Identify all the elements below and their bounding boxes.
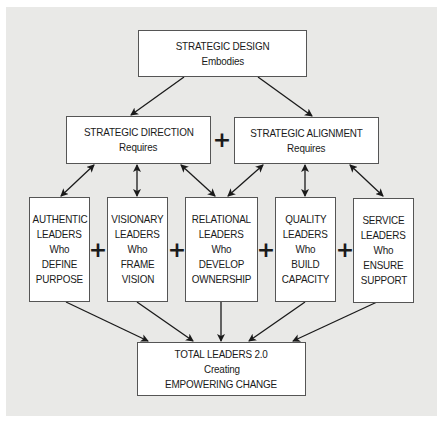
- total-leaders-title: TOTAL LEADERS 2.0: [175, 347, 268, 362]
- arrow-alignment-service: [350, 165, 383, 196]
- arrow-design-to-alignment: [258, 77, 312, 116]
- leader-line: Who: [374, 243, 394, 258]
- leader-line: DEVELOP: [199, 257, 245, 272]
- leader-line: ENSURE: [363, 258, 403, 273]
- leader-line: AUTHENTIC: [32, 212, 87, 227]
- arrow-visionary-to-total: [137, 302, 193, 341]
- authentic-leaders-box: AUTHENTIC LEADERS Who DEFINE PURPOSE: [29, 197, 90, 302]
- plus-sign-3: +: [257, 239, 275, 261]
- arrow-alignment-relational: [228, 165, 263, 196]
- leader-line: Who: [128, 242, 148, 257]
- leader-line: VISIONARY: [111, 212, 163, 227]
- leader-line: RELATIONAL: [192, 212, 251, 227]
- leader-line: SERVICE: [362, 213, 404, 228]
- strategic-alignment-box: STRATEGIC ALIGNMENT Requires: [234, 117, 379, 164]
- leader-line: Who: [296, 242, 316, 257]
- leader-line: SUPPORT: [360, 273, 406, 288]
- leader-line: VISION: [121, 272, 153, 287]
- leader-line: FRAME: [121, 257, 155, 272]
- arrow-quality-to-total: [249, 302, 305, 341]
- plus-sign-4: +: [336, 239, 354, 261]
- plus-sign-direction-alignment: +: [213, 129, 231, 151]
- strategic-direction-box: STRATEGIC DIRECTION Requires: [66, 116, 211, 164]
- strategic-direction-subtitle: Requires: [119, 140, 157, 155]
- leader-line: Who: [50, 242, 70, 257]
- visionary-leaders-box: VISIONARY LEADERS Who FRAME VISION: [107, 197, 168, 302]
- strategic-alignment-title: STRATEGIC ALIGNMENT: [250, 126, 362, 141]
- arrow-direction-relational: [181, 165, 215, 196]
- service-leaders-box: SERVICE LEADERS Who ENSURE SUPPORT: [353, 198, 414, 303]
- arrow-direction-authentic: [61, 165, 94, 196]
- arrow-authentic-to-total: [66, 302, 148, 341]
- strategic-design-subtitle: Embodies: [201, 54, 244, 69]
- relational-leaders-box: RELATIONAL LEADERS Who DEVELOP OWNERSHIP: [185, 197, 258, 302]
- leader-line: LEADERS: [361, 228, 406, 243]
- leader-line: BUILD: [291, 257, 319, 272]
- leader-line: DEFINE: [42, 257, 77, 272]
- leader-line: LEADERS: [37, 227, 82, 242]
- arrow-design-to-direction: [131, 77, 184, 115]
- leader-line: OWNERSHIP: [192, 272, 251, 287]
- leader-line: CAPACITY: [282, 272, 329, 287]
- strategic-design-title: STRATEGIC DESIGN: [176, 39, 270, 54]
- leader-line: QUALITY: [285, 212, 326, 227]
- leader-line: LEADERS: [283, 227, 328, 242]
- strategic-alignment-subtitle: Requires: [287, 141, 325, 156]
- total-leaders-verb: Creating: [203, 362, 239, 377]
- leader-line: LEADERS: [199, 227, 244, 242]
- strategic-design-box: STRATEGIC DESIGN Embodies: [138, 30, 307, 77]
- total-leaders-box: TOTAL LEADERS 2.0 Creating EMPOWERING CH…: [137, 342, 306, 396]
- plus-sign-1: +: [89, 239, 107, 261]
- arrow-service-to-total: [293, 302, 377, 341]
- leader-line: Who: [212, 242, 232, 257]
- total-leaders-outcome: EMPOWERING CHANGE: [166, 377, 278, 392]
- leader-line: PURPOSE: [36, 272, 83, 287]
- plus-sign-2: +: [168, 239, 186, 261]
- leader-line: LEADERS: [115, 227, 160, 242]
- strategic-direction-title: STRATEGIC DIRECTION: [84, 125, 194, 140]
- quality-leaders-box: QUALITY LEADERS Who BUILD CAPACITY: [275, 197, 336, 302]
